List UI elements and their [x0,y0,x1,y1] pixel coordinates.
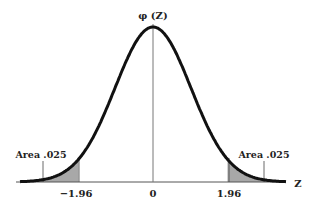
area-label-right: Area .025 [237,149,289,160]
area-label-left: Area .025 [14,149,66,160]
y-axis-label: φ (Z) [138,10,167,21]
x-axis-label: Z [294,178,301,189]
tick-label-pos: 1.96 [217,188,241,199]
normal-distribution-chart: φ (Z) Z −1.96 0 1.96 Area .025 Area .025 [0,0,312,208]
tick-label-neg: −1.96 [60,188,93,199]
tick-label-zero: 0 [150,188,157,199]
